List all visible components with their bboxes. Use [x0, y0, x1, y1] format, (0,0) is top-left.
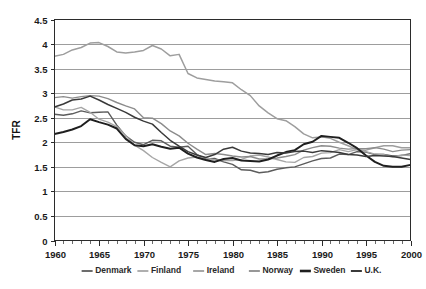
- y-tick-label: 2: [42, 137, 47, 148]
- legend-label-ireland: Ireland: [207, 265, 235, 275]
- legend-label-u-k: U.K.: [364, 265, 381, 275]
- y-tick-label: 1.5: [34, 162, 48, 173]
- x-tick-label: 1995: [356, 249, 378, 260]
- legend-label-denmark: Denmark: [95, 265, 132, 275]
- legend-label-sweden: Sweden: [313, 265, 345, 275]
- y-tick-label: 1: [42, 186, 48, 197]
- chart-legend: DenmarkFinlandIrelandNorwaySwedenU.K.: [82, 265, 382, 275]
- tfr-line-chart: 00.511.522.533.544.5 1960196519701975198…: [0, 0, 426, 289]
- y-tick-label: 0.5: [34, 211, 48, 222]
- legend-label-finland: Finland: [151, 265, 181, 275]
- y-tick-label: 0: [42, 236, 47, 247]
- y-tick-label: 2.5: [34, 113, 48, 124]
- x-tick-label: 1970: [134, 249, 155, 260]
- x-tick-label: 1960: [45, 249, 66, 260]
- y-axis-title: TFR: [11, 120, 22, 140]
- chart-container: 00.511.522.533.544.5 1960196519701975198…: [0, 0, 426, 289]
- x-tick-label: 2000: [401, 249, 422, 260]
- x-axis-tick-labels: 196019651970197519801985199019952000: [45, 249, 422, 260]
- x-tick-label: 1965: [89, 249, 111, 260]
- x-tick-label: 1980: [223, 249, 244, 260]
- y-tick-label: 4.5: [34, 15, 48, 26]
- chart-background: [0, 0, 426, 289]
- x-tick-label: 1990: [312, 249, 333, 260]
- legend-label-norway: Norway: [262, 265, 293, 275]
- x-tick-label: 1985: [267, 249, 289, 260]
- y-tick-label: 3.5: [34, 64, 48, 75]
- y-tick-label: 3: [42, 88, 47, 99]
- x-tick-label: 1975: [178, 249, 200, 260]
- y-tick-label: 4: [42, 39, 48, 50]
